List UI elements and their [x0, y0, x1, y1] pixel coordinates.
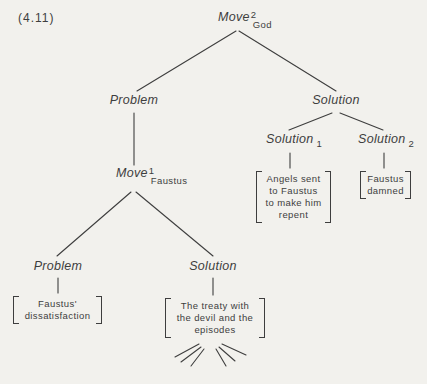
content-line: to make him — [265, 197, 321, 209]
content-line: Angels sent — [266, 173, 320, 185]
bracket-text: Angels sent to Faustus to make him repen… — [261, 171, 326, 223]
fan-ray — [181, 347, 201, 362]
content-line: Faustus — [367, 173, 404, 185]
fan-ray — [191, 349, 204, 366]
content-faustus-dissatisfaction: Faustus' dissatisfaction — [13, 296, 102, 324]
content-line: to Faustus — [269, 185, 317, 197]
fan-ray — [175, 344, 199, 357]
node-solution-2: Solution2 — [358, 132, 414, 147]
edge-root-problem — [137, 31, 236, 91]
node-label: Move — [116, 166, 148, 180]
node-label: Solution — [266, 132, 314, 146]
content-line: dissatisfaction — [25, 310, 91, 322]
node-solution-level1: Solution — [312, 93, 360, 108]
content-line: the devil and the — [177, 312, 254, 324]
node-subscript: Faustus — [151, 176, 188, 186]
node-move1-faustus: Move1Faustus — [116, 166, 187, 186]
expansion-fan — [175, 344, 246, 366]
content-line: episodes — [194, 324, 235, 336]
node-solution-level2: Solution — [189, 259, 237, 274]
diagram-page: (4.11) Move2God Problem Solution Solutio… — [0, 0, 427, 384]
node-label: Move — [218, 10, 250, 24]
content-treaty: The treaty with the devil and the episod… — [165, 298, 265, 338]
edge-move1-problem — [57, 192, 131, 256]
content-faustus-damned: Faustus damned — [360, 171, 411, 199]
node-subscript: 2 — [409, 138, 415, 149]
edge-move1-solution — [136, 192, 213, 256]
edge-solution-solution2 — [340, 113, 383, 130]
content-line: damned — [367, 185, 404, 197]
content-line: The treaty with — [181, 300, 249, 312]
bracket-text: Faustus damned — [365, 171, 406, 199]
content-line: repent — [279, 209, 308, 221]
figure-number: (4.11) — [18, 11, 54, 25]
content-line: Faustus' — [38, 298, 77, 310]
node-label: Solution — [358, 132, 406, 146]
node-solution-1: Solution1 — [266, 132, 322, 147]
bracket-text: The treaty with the devil and the episod… — [170, 298, 260, 338]
edge-solution-solution1 — [289, 113, 332, 130]
node-problem-level1: Problem — [110, 93, 159, 108]
node-problem-level2: Problem — [34, 259, 83, 274]
content-angels-sent: Angels sent to Faustus to make him repen… — [256, 171, 331, 223]
node-subscript: God — [253, 20, 272, 30]
bracket-text: Faustus' dissatisfaction — [18, 296, 97, 324]
node-move2-god: Move2God — [218, 10, 272, 30]
node-subscript: 1 — [317, 138, 323, 149]
edge-root-solution — [239, 31, 336, 91]
